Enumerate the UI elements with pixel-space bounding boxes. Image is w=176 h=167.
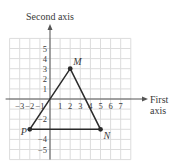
y-axis-label: Second axis bbox=[26, 11, 74, 22]
x-axis-arrow-icon bbox=[142, 97, 148, 102]
x-tick-label: 7 bbox=[119, 101, 123, 111]
y-tick-label: 2 bbox=[43, 74, 47, 84]
point-label-p: P bbox=[20, 126, 27, 137]
x-tick-label: 5 bbox=[98, 101, 102, 111]
coordinate-plane: −3−2−1123456754321−2−4−5 MNP Second axis… bbox=[0, 0, 176, 167]
x-tick-label: 2 bbox=[68, 101, 72, 111]
x-axis-label-line2: axis bbox=[150, 105, 166, 116]
y-tick-label: −5 bbox=[38, 145, 47, 155]
y-axis-arrow-icon bbox=[48, 24, 53, 30]
x-tick-label: −3 bbox=[15, 101, 24, 111]
y-tick-label: −4 bbox=[38, 134, 48, 144]
x-tick-label: 1 bbox=[58, 101, 62, 111]
point-label-m: M bbox=[72, 56, 82, 67]
y-tick-label: 3 bbox=[43, 64, 47, 74]
y-tick-label: 5 bbox=[43, 44, 47, 54]
point-p bbox=[27, 127, 32, 132]
x-axis-label-line1: First bbox=[150, 94, 169, 105]
y-tick-label: 1 bbox=[43, 84, 47, 94]
x-tick-label: −2 bbox=[25, 101, 34, 111]
x-tick-label: 6 bbox=[108, 101, 112, 111]
point-label-n: N bbox=[103, 130, 112, 141]
x-tick-label: 3 bbox=[78, 101, 82, 111]
point-n bbox=[98, 127, 103, 132]
point-m bbox=[68, 66, 73, 71]
